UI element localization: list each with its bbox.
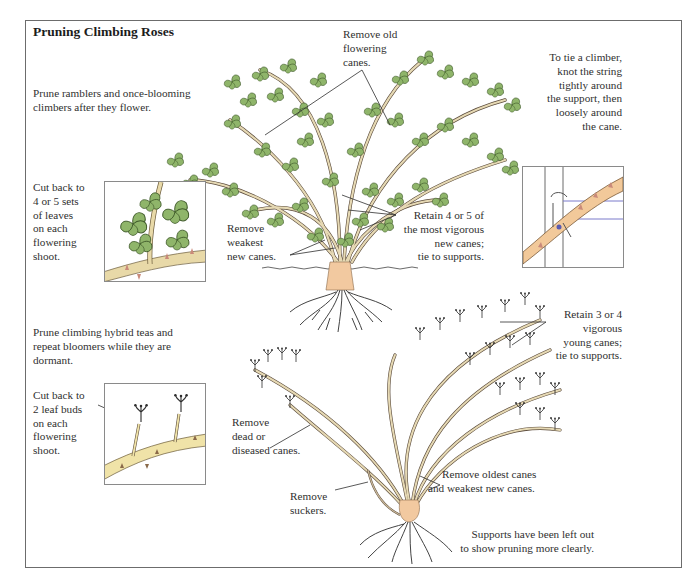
caption-line: on each — [33, 222, 103, 236]
callout-line: suckers. — [290, 504, 327, 518]
note-line: knot the string — [520, 65, 622, 79]
callout-line: Remove — [227, 222, 276, 236]
caption-line: 4 or 5 sets — [33, 195, 103, 209]
note-line: the support, then — [520, 92, 622, 106]
callout-line: diseased canes. — [232, 444, 300, 458]
inset-cut-leaves — [104, 181, 206, 282]
cut-buds-caption: Cut back to 2 leaf buds on each flowerin… — [33, 389, 103, 458]
callout-line: canes. — [343, 56, 397, 70]
note-line: loosely around — [520, 106, 622, 120]
callout-line: Retain 3 or 4 — [548, 308, 622, 322]
inset-cut-buds — [104, 383, 206, 485]
callout-line: Remove old — [343, 28, 397, 42]
callout-line: tie to supports. — [548, 349, 622, 363]
callout-remove-dead: Remove dead or diseased canes. — [232, 416, 300, 457]
callout-line: Remove — [232, 416, 300, 430]
caption-line: flowering — [33, 236, 103, 250]
callout-line: and weakest new canes. — [428, 482, 536, 496]
caption-line: shoot. — [33, 250, 103, 264]
bud-shoot-illustration — [105, 384, 205, 484]
cut-leaves-caption: Cut back to 4 or 5 sets of leaves on eac… — [33, 181, 103, 264]
callout-line: flowering — [343, 42, 397, 56]
callout-remove-suckers: Remove suckers. — [290, 490, 327, 518]
callout-line: Retain 4 or 5 of — [392, 209, 484, 223]
footnote-supports: Supports have been left out to show prun… — [440, 528, 594, 556]
callout-line: weakest — [227, 236, 276, 250]
caption-line: flowering — [33, 430, 103, 444]
note-line: tightly around — [520, 79, 622, 93]
note-line: To tie a climber, — [520, 51, 622, 65]
callout-line: vigorous — [548, 322, 622, 336]
ramblers-intro: Prune ramblers and once-blooming climber… — [33, 87, 213, 115]
rambler-plant — [166, 49, 522, 332]
callout-line: the most vigorous — [392, 223, 484, 237]
caption-line: Cut back to — [33, 181, 103, 195]
cut-shoot-illustration — [105, 182, 205, 281]
note-line: the cane. — [520, 120, 622, 134]
callout-remove-weakest: Remove weakest new canes. — [227, 222, 276, 263]
callout-retain-4-5: Retain 4 or 5 of the most vigorous new c… — [392, 209, 484, 264]
intro-line: repeat bloomers while they are — [33, 340, 173, 354]
caption-line: shoot. — [33, 444, 103, 458]
callout-line: young canes; — [548, 336, 622, 350]
callout-line: dead or — [232, 430, 300, 444]
intro-line: Prune climbing hybrid teas and — [33, 326, 173, 340]
caption-line: Cut back to — [33, 389, 103, 403]
callout-line: Remove oldest canes — [428, 468, 536, 482]
tie-climber-note: To tie a climber, knot the string tightl… — [520, 51, 622, 134]
callout-line: new canes; — [392, 237, 484, 251]
footnote-line: Supports have been left out — [440, 528, 594, 542]
caption-line: 2 leaf buds — [33, 403, 103, 417]
caption-line: of leaves — [33, 209, 103, 223]
hybrid-teas-intro: Prune climbing hybrid teas and repeat bl… — [33, 326, 173, 367]
tie-illustration — [523, 167, 623, 267]
caption-line: on each — [33, 417, 103, 431]
intro-line: dormant. — [33, 354, 173, 368]
callout-remove-oldest: Remove oldest canes and weakest new cane… — [428, 468, 536, 496]
callout-line: Remove — [290, 490, 327, 504]
callout-line: new canes. — [227, 250, 276, 264]
callout-retain-3-4: Retain 3 or 4 vigorous young canes; tie … — [548, 308, 622, 363]
footnote-line: to show pruning more clearly. — [440, 542, 594, 556]
callout-remove-old-canes: Remove old flowering canes. — [343, 28, 397, 69]
inset-tie-climber — [522, 166, 624, 268]
callout-line: tie to supports. — [392, 250, 484, 264]
